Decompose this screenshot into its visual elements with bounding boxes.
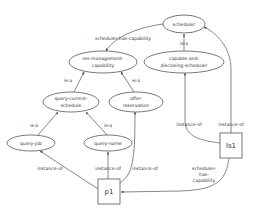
- node-query-name[interactable]: query-name: [84, 135, 132, 151]
- edge-label-isa: is-a: [64, 78, 72, 83]
- edge-label-scheduler-has-capability: capability: [193, 178, 216, 183]
- node-label: query-current-: [54, 96, 87, 101]
- node-p1[interactable]: p1: [98, 179, 120, 204]
- node-offer-reservation[interactable]: offer- reservation: [109, 92, 163, 112]
- node-label: ls1: [226, 142, 236, 150]
- edge-ls1-instance-of-capable: [185, 73, 220, 143]
- edge-label-isa: is-a: [180, 41, 188, 46]
- node-label: capable-and-: [169, 56, 199, 61]
- node-label: res-management-: [82, 56, 123, 61]
- edge-label-scheduler-has-capability: scheduler-: [192, 166, 216, 171]
- node-label: scheduler: [173, 22, 196, 27]
- edge-ls1-instance-of-scheduler: [204, 27, 231, 133]
- node-res-management-capability[interactable]: res-management- capability: [69, 51, 137, 73]
- node-query-job[interactable]: query-job: [7, 135, 55, 151]
- edge-label-isa: is-a: [30, 123, 38, 128]
- edge-label-instance-of: instance-of: [95, 166, 121, 171]
- node-label: capability: [92, 63, 115, 68]
- node-scheduler[interactable]: scheduler: [163, 15, 205, 33]
- node-label: p1: [105, 188, 114, 196]
- edge-label-scheduler-has-capability: has-: [199, 172, 209, 177]
- node-ls1[interactable]: ls1: [220, 133, 242, 158]
- node-capable-and-disclosing-scheduler[interactable]: capable-and- disclosing-scheduler: [144, 51, 224, 73]
- node-label: query-name: [94, 141, 122, 146]
- node-label: reservation: [123, 103, 149, 108]
- node-label: query-job: [20, 141, 42, 146]
- edge-label-isa: is-a: [104, 123, 112, 128]
- node-label: schedule: [61, 103, 82, 108]
- edge-qcs-isa-resmgmt: [74, 72, 84, 92]
- semantic-network-diagram: scheduler-has-capability is-a is-a is-a …: [0, 0, 257, 217]
- node-label: offer-: [130, 96, 142, 101]
- node-label: disclosing-scheduler: [161, 63, 208, 68]
- edge-qjob-isa-qcs: [38, 112, 58, 135]
- edge-ls1-scheduler-has-capability-p1: [121, 158, 229, 192]
- edge-label-scheduler-has-capability: scheduler-has-capability: [95, 36, 151, 41]
- node-query-current-schedule[interactable]: query-current- schedule: [43, 92, 99, 112]
- edge-label-instance-of: instance-of: [132, 166, 158, 171]
- edge-label-instance-of: instance-of: [176, 122, 202, 127]
- edge-label-instance-of: instance-of: [218, 122, 244, 127]
- edge-label-isa: is-a: [132, 78, 140, 83]
- edge-label-instance-of: instance-of: [37, 166, 63, 171]
